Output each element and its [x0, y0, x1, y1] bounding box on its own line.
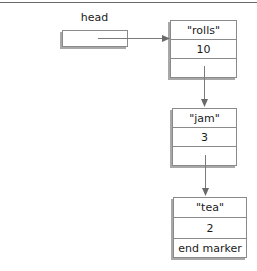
- head-arrow-icon: [162, 35, 170, 42]
- arrows-layer: [0, 0, 257, 271]
- jam-to-tea-arrow-icon: [202, 188, 209, 196]
- rolls-to-jam-arrow-icon: [201, 99, 208, 107]
